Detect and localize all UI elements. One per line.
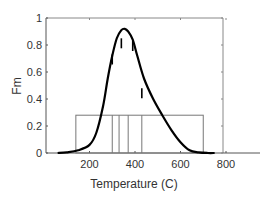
y-tick-label: 0.2 xyxy=(27,120,42,132)
x-tick-label: 800 xyxy=(217,158,235,170)
fm-curve xyxy=(58,29,215,153)
x-tick-label: 200 xyxy=(80,158,98,170)
y-tick-label: 0 xyxy=(36,147,42,159)
y-tick-label: 0.8 xyxy=(27,39,42,51)
chart: 00.20.40.60.81200400600800 Temperature (… xyxy=(0,0,266,200)
y-tick-label: 1 xyxy=(36,12,42,24)
x-tick-label: 600 xyxy=(171,158,189,170)
x-tick-label: 400 xyxy=(126,158,144,170)
y-tick-label: 0.4 xyxy=(27,93,42,105)
x-axis-label: Temperature (C) xyxy=(90,177,177,191)
axes: 00.20.40.60.81200400600800 xyxy=(27,12,260,170)
y-axis-label: Fm xyxy=(10,77,24,94)
fm-curve-line xyxy=(58,29,215,153)
y-tick-label: 0.6 xyxy=(27,66,42,78)
